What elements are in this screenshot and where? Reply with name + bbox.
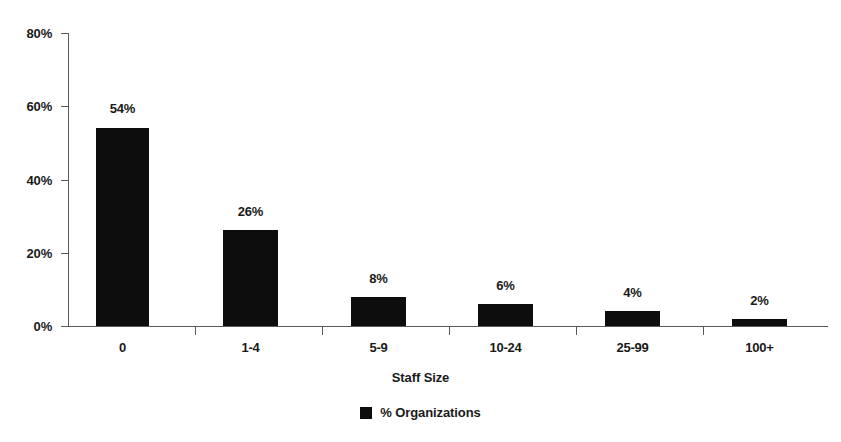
bar-25-99[interactable]: [605, 311, 660, 326]
bar-10-24[interactable]: [478, 304, 533, 326]
y-tick-label-80: 80%: [27, 26, 52, 41]
x-category-label-25-99: 25-99: [592, 340, 673, 355]
bar-value-label-1-4: 26%: [210, 204, 291, 219]
bar-value-label-25-99: 4%: [592, 285, 673, 300]
x-category-label-1-4: 1-4: [210, 340, 291, 355]
x-tick-mark-4: [576, 327, 577, 335]
legend-swatch-icon: [360, 407, 372, 419]
y-tick-mark-80: [61, 33, 68, 34]
y-tick-label-0: 0%: [34, 319, 52, 334]
bar-value-label-5-9: 8%: [338, 271, 419, 286]
x-category-label-0: 0: [82, 340, 163, 355]
x-category-label-10-24: 10-24: [465, 340, 546, 355]
y-tick-mark-60: [61, 106, 68, 107]
bar-chart: 80% 60% 40% 20% 0% 54% 26% 8% 6% 4% 2% 0…: [0, 0, 841, 442]
y-tick-mark-0: [61, 326, 68, 327]
y-tick-mark-40: [61, 180, 68, 181]
x-tick-mark-3: [449, 327, 450, 335]
y-axis-line: [68, 33, 69, 326]
y-tick-label-60: 60%: [27, 99, 52, 114]
bar-100-plus[interactable]: [732, 319, 787, 326]
x-tick-mark-1: [195, 327, 196, 335]
bar-5-9[interactable]: [351, 297, 406, 326]
x-tick-mark-2: [322, 327, 323, 335]
bar-value-label-100-plus: 2%: [719, 293, 800, 308]
bar-0[interactable]: [96, 128, 149, 326]
x-category-label-5-9: 5-9: [338, 340, 419, 355]
x-category-label-100-plus: 100+: [719, 340, 800, 355]
x-tick-mark-5: [703, 327, 704, 335]
chart-legend: % Organizations: [0, 405, 841, 420]
bar-value-label-0: 54%: [82, 101, 163, 116]
legend-label-organizations: % Organizations: [380, 405, 480, 420]
x-axis-line: [68, 326, 828, 327]
y-tick-label-40: 40%: [27, 173, 52, 188]
bar-1-4[interactable]: [223, 230, 278, 326]
x-axis-title: Staff Size: [0, 370, 841, 385]
y-tick-mark-20: [61, 253, 68, 254]
y-tick-label-20: 20%: [27, 246, 52, 261]
bar-value-label-10-24: 6%: [465, 278, 546, 293]
